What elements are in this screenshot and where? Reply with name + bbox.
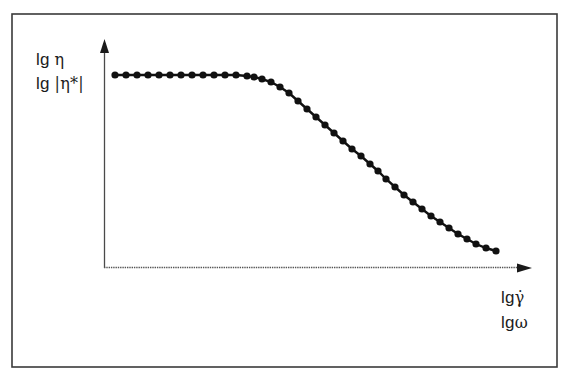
label-prefix: lg bbox=[501, 288, 515, 307]
data-point-marker bbox=[445, 224, 452, 231]
label-prefix: lg bbox=[36, 74, 55, 93]
data-point-marker bbox=[391, 183, 398, 190]
data-point-marker bbox=[436, 218, 443, 225]
data-point-marker bbox=[232, 71, 239, 78]
data-point-marker bbox=[357, 152, 364, 159]
data-point-marker bbox=[122, 71, 129, 78]
data-point-marker bbox=[400, 191, 407, 198]
figure-frame bbox=[12, 14, 557, 367]
data-point-marker bbox=[285, 89, 292, 96]
data-point-marker bbox=[250, 73, 257, 80]
data-point-marker bbox=[210, 71, 217, 78]
data-point-marker bbox=[492, 247, 499, 254]
data-point-marker bbox=[276, 83, 283, 90]
x-axis-arrow-icon bbox=[517, 264, 532, 273]
data-point-marker bbox=[294, 97, 301, 104]
data-point-marker bbox=[339, 137, 346, 144]
data-point-marker bbox=[312, 113, 319, 120]
data-point-marker bbox=[472, 240, 479, 247]
label-prefix: lg bbox=[501, 313, 515, 332]
eta-symbol: η bbox=[55, 50, 65, 69]
gamma-dot-symbol: γ̇ bbox=[515, 288, 525, 307]
data-point-marker bbox=[348, 145, 355, 152]
data-point-marker bbox=[111, 71, 118, 78]
y-axis-arrow-icon bbox=[100, 39, 109, 53]
x-axis-label-angular-frequency: lgω bbox=[501, 313, 528, 333]
data-point-marker bbox=[321, 121, 328, 128]
data-point-marker bbox=[409, 198, 416, 205]
y-axis-label-complex-viscosity: lg |η*| bbox=[36, 74, 84, 94]
complex-eta-symbol: |η*| bbox=[55, 74, 84, 93]
data-point-marker bbox=[188, 71, 195, 78]
data-point-marker bbox=[155, 71, 162, 78]
data-point-marker bbox=[366, 160, 373, 167]
data-point-marker bbox=[482, 244, 489, 251]
omega-symbol: ω bbox=[515, 313, 528, 332]
data-point-marker bbox=[144, 71, 151, 78]
data-point-marker bbox=[267, 78, 274, 85]
data-point-marker bbox=[221, 71, 228, 78]
data-point-marker bbox=[454, 230, 461, 237]
data-point-marker bbox=[374, 167, 381, 174]
flow-curve-figure: lg η lg |η*| lgγ̇ lgω bbox=[0, 0, 574, 382]
data-point-marker bbox=[418, 205, 425, 212]
data-point-marker bbox=[177, 71, 184, 78]
data-point-marker bbox=[330, 129, 337, 136]
label-prefix: lg bbox=[36, 50, 55, 69]
data-point-marker bbox=[166, 71, 173, 78]
data-point-marker bbox=[427, 212, 434, 219]
data-point-marker bbox=[133, 71, 140, 78]
x-axis-label-shear-rate: lgγ̇ bbox=[501, 288, 524, 308]
flow-curve-plot bbox=[0, 0, 574, 382]
data-point-marker bbox=[382, 175, 389, 182]
data-point-marker bbox=[199, 71, 206, 78]
data-point-marker bbox=[258, 75, 265, 82]
y-axis-label-viscosity: lg η bbox=[36, 50, 64, 70]
data-point-marker bbox=[303, 105, 310, 112]
flow-curve bbox=[111, 71, 499, 254]
data-point-marker bbox=[463, 235, 470, 242]
data-point-marker bbox=[243, 72, 250, 79]
